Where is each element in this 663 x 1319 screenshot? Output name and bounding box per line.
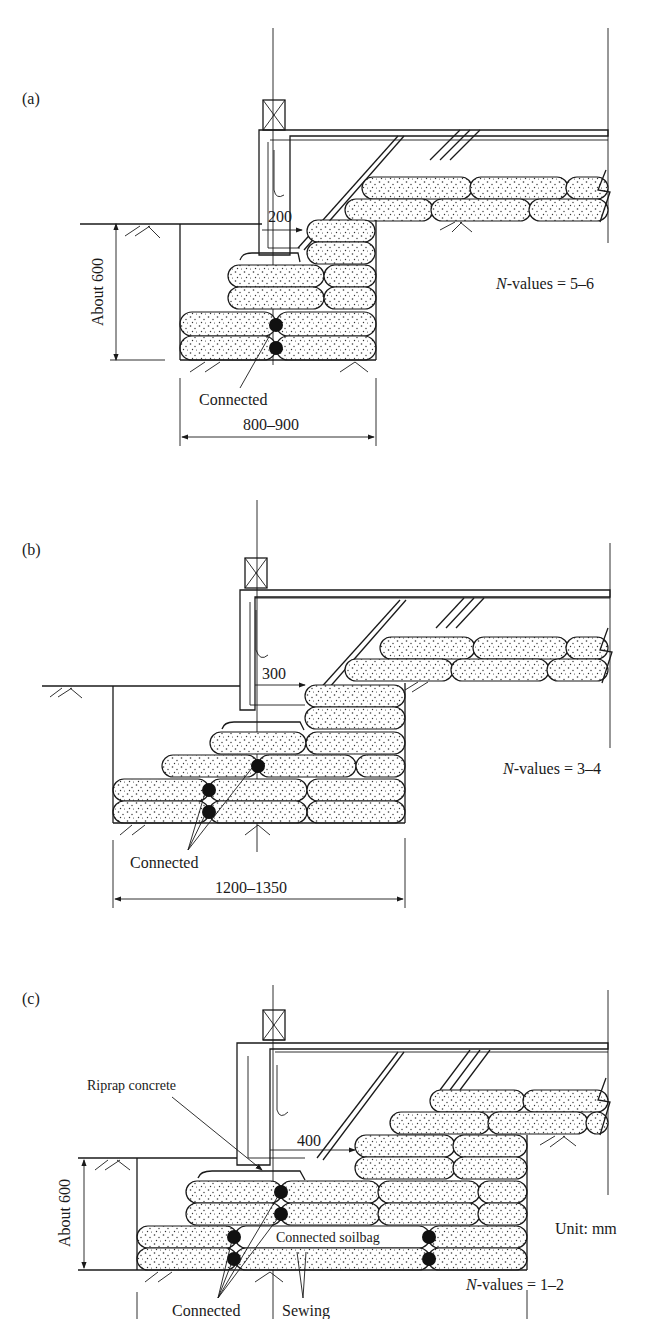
connected-label: Connected xyxy=(130,854,198,871)
connection-point xyxy=(274,1185,288,1199)
sewing-label: Sewing xyxy=(282,1302,330,1319)
depth-dimension-label: About 600 xyxy=(89,258,106,326)
riprap-concrete-label: Riprap concrete xyxy=(87,1078,176,1093)
panel-a: (a) xyxy=(22,28,610,446)
panel-c-label: (c) xyxy=(22,990,40,1008)
connection-point xyxy=(274,1207,288,1221)
unit-label: Unit: mm xyxy=(555,1220,617,1237)
connection-point xyxy=(422,1230,436,1244)
n-values-label: N-values = 5–6 xyxy=(495,275,594,292)
connected-label: Connected xyxy=(199,391,267,408)
connected-soilbag-label: Connected soilbag xyxy=(276,1230,380,1245)
connection-point xyxy=(227,1252,241,1266)
n-values-label: N-values = 3–4 xyxy=(502,760,601,777)
connection-point xyxy=(251,759,265,773)
soilbag-foundation-figure: (a) xyxy=(0,0,663,1319)
width-dimension-label: 800–900 xyxy=(243,416,299,433)
connection-point xyxy=(269,318,283,332)
connection-point xyxy=(227,1230,241,1244)
panel-a-label: (a) xyxy=(22,90,40,108)
connection-point xyxy=(422,1252,436,1266)
width-dimension-label: 1200–1350 xyxy=(215,879,287,896)
panel-b-label: (b) xyxy=(22,541,41,559)
panel-c: (c) xyxy=(22,985,617,1319)
offset-dimension-label: 200 xyxy=(268,208,292,225)
offset-dimension-label: 300 xyxy=(262,665,286,682)
panel-b: (b) xyxy=(22,500,612,908)
connected-label: Connected xyxy=(172,1302,240,1319)
n-values-label: N-values = 1–2 xyxy=(465,1276,564,1293)
depth-dimension-label: About 600 xyxy=(56,1179,73,1247)
offset-dimension-label: 400 xyxy=(297,1132,321,1149)
connection-point xyxy=(269,341,283,355)
